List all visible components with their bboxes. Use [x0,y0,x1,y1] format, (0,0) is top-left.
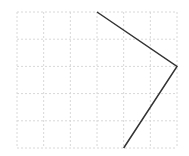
line-chart [0,0,189,156]
data-line [97,12,177,148]
chart-grid [17,12,177,148]
